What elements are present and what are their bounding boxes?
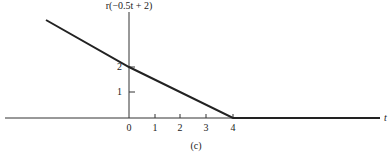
ramp-function-plot: r(−0.5t + 2) t 0 1 2 3 4 1 2 (c): [0, 0, 389, 157]
figure-caption: (c): [190, 140, 201, 152]
x-tick-label-0: 0: [127, 122, 132, 133]
y-tick-label-2: 2: [117, 61, 122, 72]
x-axis-title: t: [384, 112, 387, 123]
x-tick-label-4: 4: [231, 122, 236, 133]
y-tick-label-1: 1: [117, 86, 122, 97]
x-tick-label-2: 2: [178, 122, 183, 133]
x-ticks: [155, 114, 233, 118]
x-tick-label-3: 3: [204, 122, 209, 133]
x-tick-label-1: 1: [153, 122, 158, 133]
y-axis-title: r(−0.5t + 2): [106, 0, 153, 12]
ramp-function-line: [46, 20, 380, 118]
y-ticks: [129, 67, 135, 92]
